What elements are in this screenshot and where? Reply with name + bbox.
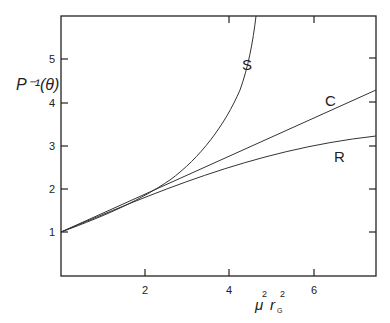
chart-plot: 1 2 3 4 5 2 4 6 P⁻¹(θ) μ 2 r G 2 S C R — [0, 0, 390, 323]
svg-text:r: r — [270, 296, 276, 313]
curve-c — [61, 90, 376, 232]
ytick-label: 2 — [49, 183, 55, 195]
svg-text:G: G — [277, 307, 282, 314]
ytick-label: 5 — [49, 53, 55, 65]
y-axis-label: P⁻¹(θ) — [16, 76, 59, 93]
curve-label-c: C — [325, 92, 336, 109]
svg-text:2: 2 — [262, 289, 267, 299]
ytick-label: 1 — [49, 226, 55, 238]
curve-r — [61, 136, 376, 232]
x-axis-label: μ 2 r G 2 — [254, 289, 285, 314]
curve-label-s: S — [242, 56, 252, 73]
plot-frame — [61, 16, 376, 276]
curve-s — [61, 16, 256, 232]
y-ticks-left — [61, 59, 68, 232]
xtick-label: 4 — [226, 284, 232, 296]
svg-text:2: 2 — [280, 289, 285, 299]
curve-label-r: R — [334, 148, 345, 165]
ytick-label: 4 — [49, 97, 55, 109]
xtick-label: 6 — [311, 284, 317, 296]
x-ticks — [145, 16, 314, 276]
xtick-label: 2 — [142, 284, 148, 296]
ytick-label: 3 — [49, 140, 55, 152]
y-ticks-right — [369, 58, 376, 232]
